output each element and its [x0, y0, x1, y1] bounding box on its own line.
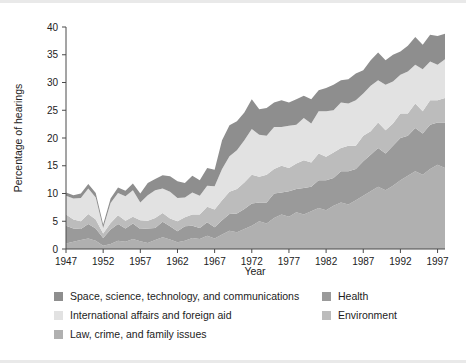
- legend-swatch-icon: [54, 292, 63, 301]
- legend-column-left: Space, science, technology, and communic…: [54, 287, 299, 344]
- legend-column-right: HealthEnvironment: [322, 287, 397, 325]
- legend-swatch-icon: [54, 330, 63, 339]
- x-tick-label: 1977: [278, 256, 301, 267]
- y-tick-label: 15: [47, 160, 59, 171]
- x-tick-label: 1997: [426, 256, 449, 267]
- legend-item-label: Law, crime, and family issues: [70, 325, 207, 343]
- legend-swatch-icon: [322, 292, 331, 301]
- legend-item[interactable]: Environment: [322, 306, 397, 324]
- legend-item-label: Health: [338, 287, 368, 305]
- x-axis-title: Year: [244, 265, 266, 277]
- figure-container: 0510152025303540 19471952195719621967197…: [0, 0, 466, 363]
- y-tick-label: 25: [47, 105, 59, 116]
- x-tick-label: 1992: [389, 256, 412, 267]
- x-tick-label: 1947: [55, 256, 78, 267]
- y-tick-group: 0510152025303540: [47, 22, 66, 255]
- legend-item[interactable]: Law, crime, and family issues: [54, 325, 299, 343]
- x-tick-label: 1982: [315, 256, 338, 267]
- y-tick-label: 35: [47, 49, 59, 60]
- legend-item-label: Space, science, technology, and communic…: [70, 287, 299, 305]
- legend-item[interactable]: Space, science, technology, and communic…: [54, 287, 299, 305]
- legend-item[interactable]: Health: [322, 287, 397, 305]
- x-tick-label: 1952: [92, 256, 115, 267]
- y-tick-label: 40: [47, 22, 59, 33]
- y-tick-label: 0: [52, 244, 58, 255]
- area-series-group: [66, 34, 445, 249]
- x-tick-label: 1957: [129, 256, 152, 267]
- legend-item-label: International affairs and foreign aid: [70, 306, 232, 324]
- legend-item-label: Environment: [338, 306, 397, 324]
- x-tick-label: 1987: [352, 256, 375, 267]
- x-tick-label: 1967: [204, 256, 227, 267]
- stacked-area-chart: 0510152025303540 19471952195719621967197…: [0, 3, 466, 281]
- y-tick-label: 5: [52, 216, 58, 227]
- y-tick-label: 30: [47, 77, 59, 88]
- legend-swatch-icon: [322, 311, 331, 320]
- chart-legend: Space, science, technology, and communic…: [0, 285, 466, 355]
- legend-item[interactable]: International affairs and foreign aid: [54, 306, 299, 324]
- legend-swatch-icon: [54, 311, 63, 320]
- y-tick-label: 10: [47, 188, 59, 199]
- chart-plot-area: 0510152025303540 19471952195719621967197…: [0, 3, 466, 281]
- y-tick-label: 20: [47, 133, 59, 144]
- y-axis-title: Percentage of hearings: [12, 84, 24, 193]
- x-tick-label: 1962: [166, 256, 189, 267]
